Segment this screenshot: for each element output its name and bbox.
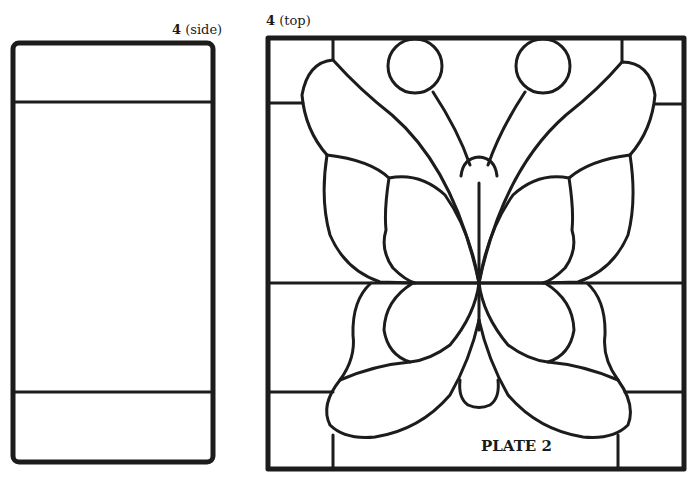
- antenna-stem-left: [433, 92, 470, 165]
- upper-right-wing: [479, 62, 655, 283]
- top-panel-frame: [268, 38, 684, 469]
- antenna-ball-right: [516, 39, 570, 93]
- tail: [460, 380, 499, 408]
- upper-right-wing-lower-edge: [543, 155, 633, 283]
- lower-right-wing-inner-edge: [548, 362, 618, 380]
- head: [461, 157, 497, 176]
- upper-right-inner-lobe: [479, 177, 574, 283]
- upper-left-wing-inner-edge: [327, 155, 389, 178]
- side-panel: [13, 43, 213, 462]
- antenna-ball-left: [388, 39, 442, 93]
- side-panel-frame: [13, 43, 213, 462]
- upper-left-inner-lobe: [384, 177, 479, 283]
- antenna-stem-right: [488, 92, 525, 165]
- lower-left-wing-inner-edge: [340, 362, 410, 380]
- upper-right-wing-inner-edge: [569, 155, 630, 178]
- top-panel: [268, 38, 684, 469]
- lower-left-inner-lobe: [384, 283, 479, 362]
- upper-left-wing-lower-edge: [324, 155, 415, 283]
- pattern-drawing: PLATE 2: [0, 0, 696, 481]
- upper-left-wing: [302, 60, 479, 283]
- plate-label: PLATE 2: [481, 437, 552, 455]
- lower-right-inner-lobe: [479, 283, 574, 362]
